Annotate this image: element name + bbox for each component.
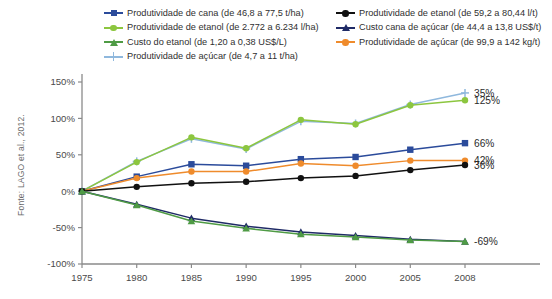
data-point-circle xyxy=(243,168,249,174)
legend-item[interactable]: Produtividade de etanol (de 59,2 a 80,44… xyxy=(336,6,546,21)
data-point-circle xyxy=(298,175,304,181)
series-line xyxy=(82,191,465,241)
legend-item[interactable]: Produtividade de etanol (de 2.772 a 6.23… xyxy=(104,21,332,36)
x-tick-label: 1975 xyxy=(71,272,92,283)
x-tick-label: 2008 xyxy=(454,272,475,283)
data-point-triangle xyxy=(188,217,196,224)
data-point-circle xyxy=(79,188,85,194)
axis-group: 150%100%50%0%-50%-100%197519801985199019… xyxy=(47,74,540,283)
data-point-circle xyxy=(79,188,85,194)
legend-item[interactable]: Custo do etanol (de 1,20 a 0,38 US$/L) xyxy=(104,35,332,50)
data-point-circle xyxy=(134,184,140,190)
series-line xyxy=(82,100,465,191)
series-group xyxy=(78,89,469,245)
legend-marker xyxy=(104,36,123,48)
legend-marker-circle xyxy=(342,39,349,46)
data-point-circle xyxy=(352,163,358,169)
legend-item[interactable]: Produtividade de açúcar (de 99,9 a 142 k… xyxy=(336,35,546,50)
x-tick-label: 1980 xyxy=(126,272,147,283)
data-point-circle xyxy=(407,102,413,108)
data-point-triangle xyxy=(406,236,414,243)
y-tick-label: -100% xyxy=(47,258,75,269)
y-tick-label: 0% xyxy=(61,186,75,197)
y-tick-label: 100% xyxy=(50,113,75,124)
legend-marker xyxy=(104,22,123,34)
source-note: Fonte: LAGO et al., 2012. xyxy=(16,90,26,240)
data-point-circle xyxy=(134,175,140,181)
y-tick-label: 50% xyxy=(56,149,76,160)
data-point-triangle xyxy=(188,215,196,222)
x-tick-label: 2005 xyxy=(400,272,421,283)
legend-column-right: Produtividade de etanol (de 59,2 a 80,44… xyxy=(336,6,546,50)
x-tick-label: 2000 xyxy=(345,272,366,283)
legend-marker-square xyxy=(111,10,117,16)
data-point-circle xyxy=(352,173,358,179)
data-point-circle xyxy=(298,160,304,166)
data-point-triangle xyxy=(78,188,86,195)
legend-item-label: Produtividade de etanol (de 59,2 a 80,44… xyxy=(359,9,538,18)
data-point-triangle xyxy=(297,228,305,235)
series-end-label: 125% xyxy=(474,95,500,106)
legend-marker-triangle xyxy=(110,39,118,46)
data-point-square xyxy=(352,154,358,160)
data-point-circle xyxy=(243,145,249,151)
data-point-circle xyxy=(462,157,468,163)
data-point-circle xyxy=(407,157,413,163)
data-point-circle xyxy=(407,167,413,173)
legend-item[interactable]: Custo cana de açúcar (de 44,4 a 13,8 US$… xyxy=(336,21,546,36)
data-point-circle xyxy=(462,162,468,168)
series-end-label: -69% xyxy=(474,236,498,247)
data-point-circle xyxy=(352,121,358,127)
legend-column-left: Produtividade de cana (de 46,8 a 77,5 t/… xyxy=(104,6,332,64)
legend-marker xyxy=(104,7,123,19)
data-point-circle xyxy=(462,97,468,103)
data-point-square xyxy=(298,156,304,162)
data-point-triangle xyxy=(242,225,250,232)
series-line xyxy=(82,165,465,191)
data-point-square xyxy=(243,163,249,169)
y-tick-label: 150% xyxy=(50,76,75,87)
legend-item-label: Produtividade de cana (de 46,8 a 77,5 t/… xyxy=(127,9,304,18)
series-end-label: 42% xyxy=(474,155,494,166)
x-tick-label: 1990 xyxy=(235,272,256,283)
legend-marker xyxy=(336,7,355,19)
y-tick-label: -50% xyxy=(53,222,76,233)
data-point-triangle xyxy=(133,201,141,208)
legend-marker-plus xyxy=(109,52,118,61)
legend-item-label: Custo do etanol (de 1,20 a 0,38 US$/L) xyxy=(127,38,287,47)
data-point-circle xyxy=(188,180,194,186)
data-point-square xyxy=(134,173,140,179)
legend-marker-circle xyxy=(342,10,349,17)
chart-legend: Produtividade de cana (de 46,8 a 77,5 t/… xyxy=(104,6,534,70)
data-point-circle xyxy=(188,168,194,174)
data-point-triangle xyxy=(461,238,469,245)
x-tick-label: 1995 xyxy=(290,272,311,283)
legend-item-label: Produtividade de açúcar (de 4,7 a 11 t/h… xyxy=(127,52,298,61)
data-point-triangle xyxy=(242,223,250,230)
data-point-triangle xyxy=(133,201,141,208)
data-point-triangle xyxy=(352,233,360,240)
data-point-triangle xyxy=(78,188,86,195)
data-point-circle xyxy=(298,117,304,123)
data-point-circle xyxy=(134,159,140,165)
series-line xyxy=(82,161,465,192)
data-point-square xyxy=(407,147,413,153)
legend-item[interactable]: Produtividade de cana (de 46,8 a 77,5 t/… xyxy=(104,6,332,21)
series-end-label: 36% xyxy=(474,160,494,171)
legend-marker xyxy=(336,36,355,48)
legend-item-label: Custo cana de açúcar (de 44,4 a 13,8 US$… xyxy=(359,23,541,32)
legend-item[interactable]: Produtividade de açúcar (de 4,7 a 11 t/h… xyxy=(104,50,332,65)
series-line xyxy=(82,143,465,191)
legend-marker xyxy=(104,51,123,63)
data-point-triangle xyxy=(406,236,414,243)
data-point-square xyxy=(188,161,194,167)
data-point-triangle xyxy=(461,238,469,245)
data-point-square xyxy=(79,188,85,194)
data-point-triangle xyxy=(352,232,360,239)
legend-marker xyxy=(336,22,355,34)
data-point-circle xyxy=(188,134,194,140)
data-point-circle xyxy=(243,179,249,185)
data-point-circle xyxy=(79,188,85,194)
data-point-triangle xyxy=(297,231,305,238)
series-line xyxy=(82,191,465,241)
